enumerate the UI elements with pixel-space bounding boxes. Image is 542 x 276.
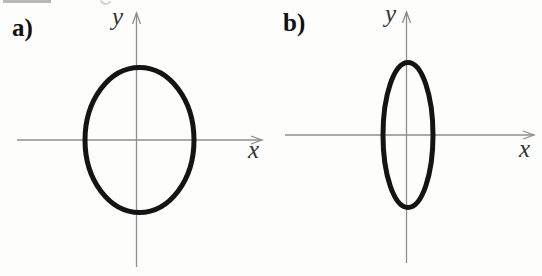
x-axis-label-b: x bbox=[518, 135, 530, 162]
y-axis-label-a: y bbox=[109, 3, 124, 30]
panel-b: b)yx bbox=[283, 0, 534, 263]
x-axis-label-a: x bbox=[247, 136, 259, 163]
figure-canvas: a)yxb)yx bbox=[0, 0, 542, 276]
y-axis-label-b: y bbox=[382, 0, 397, 27]
scan-artifact-bar bbox=[3, 0, 51, 3]
panel-label-a: a) bbox=[12, 14, 33, 42]
scan-artifact-curl bbox=[101, 1, 112, 5]
panel-label-b: b) bbox=[283, 9, 305, 37]
panel-a: a)yx bbox=[12, 3, 262, 267]
ellipse-diagrams-svg: a)yxb)yx bbox=[0, 0, 542, 276]
